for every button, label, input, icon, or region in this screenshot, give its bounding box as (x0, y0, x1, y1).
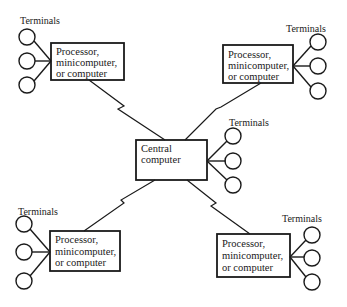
node-top-left: Terminals Processor, minicomputer, or co… (19, 15, 124, 93)
terminal-icon (304, 274, 320, 290)
box-line: Central (141, 143, 172, 154)
terminal-icon (310, 58, 326, 74)
node-central: Terminals Central computer (136, 117, 269, 193)
node-bottom-right: Terminals Processor, minicomputer, or co… (217, 213, 322, 290)
terminal-icon (16, 216, 32, 232)
box-line: minicomputer, (56, 57, 117, 68)
terminals-label: Terminals (20, 15, 60, 26)
box-line: Processor, (228, 49, 271, 60)
box-line: minicomputer, (222, 250, 283, 261)
box-line: computer (141, 154, 181, 165)
terminal-icon (16, 273, 32, 289)
terminal-icon (19, 77, 35, 93)
box-line: or computer (55, 257, 107, 268)
terminal-icon (16, 244, 32, 260)
link-top-left (89, 80, 165, 140)
box-line: minicomputer, (228, 60, 289, 71)
terminal-icon (304, 227, 320, 243)
terminals-label: Terminals (286, 23, 326, 34)
terminal-icon (225, 128, 241, 144)
terminal-icon (225, 177, 241, 193)
box-line: or computer (222, 262, 274, 273)
terminals-label: Terminals (282, 213, 322, 224)
terminal-icon (225, 153, 241, 169)
link-bottom-left (84, 180, 155, 231)
box-line: Processor, (56, 46, 99, 57)
terminal-icon (19, 53, 35, 69)
terminal-icon (19, 29, 35, 45)
box-line: Processor, (55, 234, 98, 245)
box-line: minicomputer, (55, 246, 116, 257)
terminal-icon (304, 250, 320, 266)
terminal-icon (310, 83, 326, 99)
box-line: Processor, (222, 238, 265, 249)
terminals-label: Terminals (229, 117, 269, 128)
network-diagram: Terminals Processor, minicomputer, or co… (0, 0, 347, 307)
box-line: or computer (228, 71, 280, 82)
node-top-right: Terminals Processor, minicomputer, or co… (223, 23, 326, 99)
box-line: or computer (56, 68, 108, 79)
link-top-right (185, 83, 261, 140)
terminal-icon (310, 34, 326, 50)
node-bottom-left: Terminals Processor, minicomputer, or co… (16, 206, 120, 289)
